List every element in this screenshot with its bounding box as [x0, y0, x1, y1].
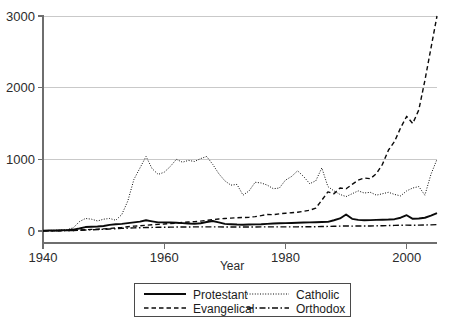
- x-tick-label-1980: 1980: [271, 250, 300, 265]
- y-tick-label-3000: 3000: [6, 9, 35, 24]
- y-tick-label-1000: 1000: [6, 152, 35, 167]
- legend-label-catholic: Catholic: [296, 288, 339, 302]
- x-tick-label-1940: 1940: [29, 250, 58, 265]
- line-chart-figure: 0100020003000 1940196019802000 Year Prot…: [0, 0, 451, 330]
- y-tick-label-2000: 2000: [6, 80, 35, 95]
- x-tick-label-1960: 1960: [150, 250, 179, 265]
- chart-canvas: 0100020003000 1940196019802000 Year Prot…: [0, 0, 451, 330]
- x-tick-label-2000: 2000: [392, 250, 421, 265]
- chart-legend: ProtestantCatholicEvangelicalOrthodox: [134, 283, 350, 316]
- legend-label-orthodox: Orthodox: [296, 302, 345, 316]
- x-axis-title: Year: [220, 259, 244, 273]
- legend-label-protestant: Protestant: [193, 288, 248, 302]
- legend-label-evangelical: Evangelical: [193, 302, 254, 316]
- chart-background: [0, 0, 451, 330]
- y-tick-label-0: 0: [28, 224, 35, 239]
